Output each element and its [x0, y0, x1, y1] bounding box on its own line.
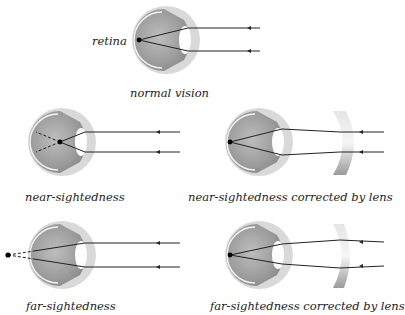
label-far-sightedness: far-sightedness	[26, 299, 116, 313]
label-retina: retina	[92, 34, 127, 48]
eye-near	[28, 108, 180, 176]
label-near-sightedness: near-sightedness	[25, 190, 125, 204]
label-far-corrected: far-sightedness corrected by lens	[210, 299, 405, 313]
eye-normal	[132, 6, 260, 74]
eye-near-corrected	[225, 108, 384, 176]
eye-far	[5, 221, 180, 289]
label-normal-vision: normal vision	[130, 86, 209, 100]
eye-far-corrected	[225, 221, 384, 289]
label-near-corrected: near-sightedness corrected by lens	[188, 190, 393, 204]
